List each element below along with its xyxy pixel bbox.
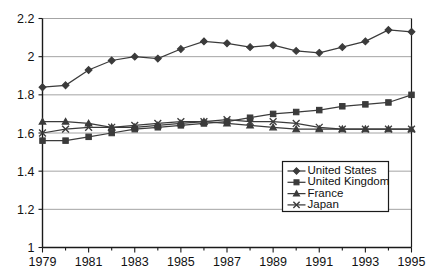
data-point — [293, 109, 298, 114]
x-tick-marks — [43, 248, 412, 253]
y-axis-label-1.2: 1.2 — [17, 203, 34, 217]
data-point — [154, 55, 161, 62]
data-point — [109, 130, 114, 135]
data-point — [63, 138, 68, 143]
data-point — [270, 42, 277, 49]
data-point — [177, 46, 184, 53]
data-point — [385, 27, 392, 34]
x-axis-tick-labels: 197919811983198519871989199119931995 — [29, 255, 426, 269]
x-axis-label-1979: 1979 — [29, 255, 57, 269]
x-axis-label-1989: 1989 — [259, 255, 287, 269]
series-united-states — [39, 27, 415, 91]
x-axis-label-1991: 1991 — [305, 255, 333, 269]
data-point — [316, 49, 323, 56]
data-point — [317, 107, 322, 112]
legend-label: United Kingdom — [308, 175, 390, 187]
data-point — [247, 44, 254, 51]
legend-label: Japan — [308, 198, 339, 210]
y-axis-label-1.6: 1.6 — [17, 127, 34, 141]
data-point — [386, 100, 391, 105]
series-united-kingdom — [40, 92, 414, 143]
data-point — [339, 44, 346, 51]
y-axis-label-1.4: 1.4 — [17, 165, 34, 179]
data-point — [363, 102, 368, 107]
line-chart: 11.21.41.61.822.2 1979198119831985198719… — [0, 0, 434, 275]
data-point — [40, 138, 45, 143]
y-axis-label-1: 1 — [28, 241, 35, 255]
data-point — [108, 57, 115, 64]
data-point — [270, 111, 275, 116]
legend-label: France — [308, 187, 344, 199]
x-axis-label-1981: 1981 — [75, 255, 103, 269]
series-line — [43, 95, 412, 141]
data-point — [362, 38, 369, 45]
series-line — [43, 30, 412, 87]
data-point — [293, 48, 300, 55]
y-axis-label-2.2: 2.2 — [17, 12, 34, 26]
legend-marker-square-icon — [294, 180, 299, 185]
x-axis-label-1993: 1993 — [351, 255, 379, 269]
x-axis-label-1995: 1995 — [398, 255, 426, 269]
chart-canvas: 11.21.41.61.822.2 1979198119831985198719… — [0, 0, 434, 275]
data-point — [408, 28, 415, 35]
data-point — [340, 104, 345, 109]
y-axis-tick-labels: 11.21.41.61.822.2 — [17, 12, 34, 255]
data-point — [85, 67, 92, 74]
chart-legend: United StatesUnited KingdomFranceJapan — [283, 162, 390, 212]
data-point — [131, 53, 138, 60]
data-point — [409, 92, 414, 97]
data-point — [201, 38, 208, 45]
y-axis-label-2: 2 — [28, 50, 35, 64]
data-point — [224, 40, 231, 47]
y-axis-label-1.8: 1.8 — [17, 88, 34, 102]
data-point — [39, 84, 46, 91]
data-point — [86, 134, 91, 139]
x-axis-label-1983: 1983 — [121, 255, 149, 269]
x-axis-label-1985: 1985 — [167, 255, 195, 269]
x-axis-label-1987: 1987 — [213, 255, 241, 269]
legend-label: United States — [308, 164, 377, 176]
data-point — [62, 82, 69, 89]
data-series-group — [39, 27, 415, 144]
